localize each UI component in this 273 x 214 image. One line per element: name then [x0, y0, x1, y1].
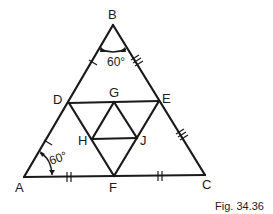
point-label-c: C [202, 177, 211, 192]
point-label-g: G [109, 85, 119, 100]
point-label-j: J [140, 133, 147, 148]
triangle-diagram: 60° 60° B D G E H J A F C Fig. 34.36 [0, 0, 273, 214]
point-label-d: D [53, 92, 62, 107]
point-label-e: E [162, 91, 171, 106]
figure-caption: Fig. 34.36 [215, 200, 264, 212]
segment-hj [92, 138, 137, 139]
angle-arc-b [100, 47, 126, 52]
angle-label-b: 60° [107, 55, 125, 69]
inner-triangle-ghj [92, 102, 137, 139]
segment-gj [114, 102, 137, 138]
point-label-b: B [108, 7, 117, 22]
segment-gh [92, 102, 114, 139]
angle-label-a: 60° [47, 148, 69, 167]
point-label-f: F [109, 180, 117, 195]
point-label-a: A [15, 180, 24, 195]
point-label-h: H [78, 133, 87, 148]
